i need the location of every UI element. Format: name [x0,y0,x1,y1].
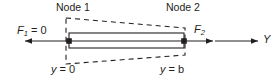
node-1-label: Node 1 [56,2,90,13]
force-f2-symbol: F [194,23,201,35]
force-f2-label: F2 [194,24,205,36]
coordinate-right-value: = b [166,63,185,75]
y-axis-label: Y [263,34,270,45]
node-2-label: Node 2 [166,2,200,13]
coordinate-left-label: y = 0 [51,64,75,75]
force-f2-arrow [206,38,213,44]
coordinate-left-value: = 0 [57,63,76,75]
coordinate-right-label: y = b [160,64,184,75]
figure-canvas: Node 1 Node 2 F1 = 0 F2 Y y = 0 y = b [0,0,278,82]
force-f1-symbol: F [17,24,24,36]
force-f1-label: F1 = 0 [17,25,47,37]
force-f2-subscript: 2 [201,28,205,37]
bar-element-diagram [0,0,278,82]
node-1-marker [66,38,72,44]
force-f1-value: = 0 [28,24,47,36]
force-f1-arrow [25,38,32,44]
y-axis-arrow [251,38,258,44]
node-2-marker [181,38,187,44]
